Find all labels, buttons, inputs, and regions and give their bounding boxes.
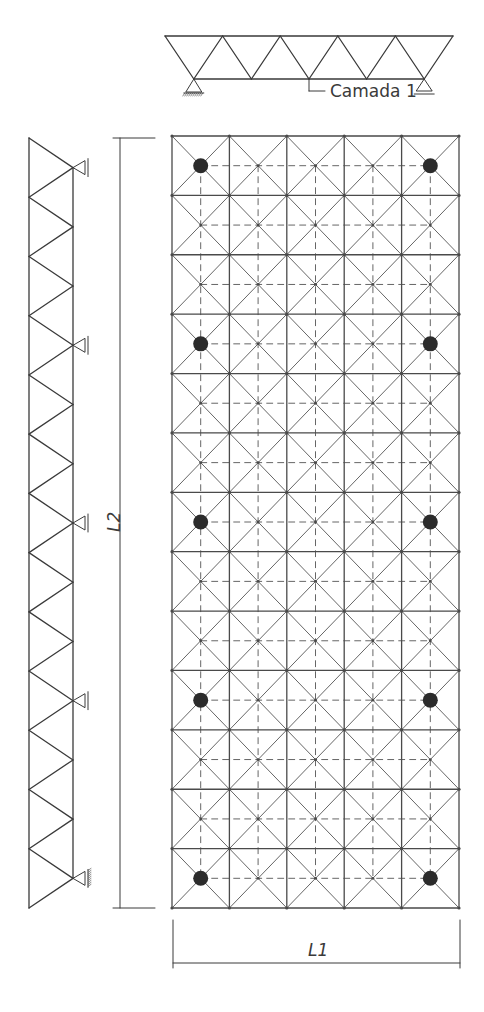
node xyxy=(314,877,317,880)
node xyxy=(429,283,432,286)
node xyxy=(400,906,403,909)
node xyxy=(170,906,173,909)
web-diagonal xyxy=(29,375,73,405)
node xyxy=(343,134,346,137)
node xyxy=(257,342,260,345)
node xyxy=(400,609,403,612)
node xyxy=(170,788,173,791)
web-diagonal xyxy=(29,582,73,612)
support-dot xyxy=(423,515,438,530)
node xyxy=(257,521,260,524)
web-diagonal xyxy=(29,849,73,879)
support-dot xyxy=(193,515,208,530)
web-diagonal xyxy=(280,36,309,79)
node xyxy=(199,461,202,464)
web-diagonal xyxy=(29,168,73,198)
roller-support-icon xyxy=(416,79,432,91)
web-diagonal xyxy=(309,36,338,79)
node xyxy=(400,194,403,197)
web-diagonal xyxy=(29,434,73,464)
web-diagonal xyxy=(29,612,73,642)
web-diagonal xyxy=(424,36,453,79)
side-truss-elevation xyxy=(29,138,91,908)
node xyxy=(170,728,173,731)
node xyxy=(372,164,375,167)
support-dot xyxy=(423,158,438,173)
support-dot xyxy=(423,336,438,351)
web-diagonal xyxy=(29,197,73,227)
node xyxy=(228,372,231,375)
web-diagonal xyxy=(29,227,73,257)
node xyxy=(314,699,317,702)
node xyxy=(372,758,375,761)
node xyxy=(170,669,173,672)
node xyxy=(199,402,202,405)
support-dot xyxy=(193,336,208,351)
node xyxy=(429,580,432,583)
node xyxy=(257,402,260,405)
node xyxy=(257,224,260,227)
node xyxy=(372,877,375,880)
node xyxy=(170,194,173,197)
node xyxy=(228,431,231,434)
node xyxy=(285,431,288,434)
node xyxy=(170,847,173,850)
web-diagonal xyxy=(29,345,73,375)
node xyxy=(429,461,432,464)
node xyxy=(199,639,202,642)
node xyxy=(429,402,432,405)
node xyxy=(285,491,288,494)
node xyxy=(314,461,317,464)
web-diagonal xyxy=(29,730,73,760)
node xyxy=(257,580,260,583)
node xyxy=(372,818,375,821)
space-truss-diagram: Camada 1 L1 L2 xyxy=(0,0,484,1012)
node xyxy=(285,788,288,791)
node xyxy=(228,669,231,672)
node xyxy=(343,194,346,197)
node xyxy=(457,847,460,850)
web-diagonal xyxy=(29,316,73,346)
pinned-support-icon xyxy=(186,79,202,92)
node xyxy=(429,639,432,642)
dimension-label-l2: L2 xyxy=(104,512,124,532)
node xyxy=(285,194,288,197)
node xyxy=(457,134,460,137)
node xyxy=(228,253,231,256)
node xyxy=(343,847,346,850)
web-diagonal xyxy=(29,405,73,435)
node xyxy=(228,550,231,553)
node xyxy=(228,313,231,316)
node xyxy=(343,788,346,791)
node xyxy=(457,431,460,434)
node xyxy=(170,431,173,434)
support-dot xyxy=(193,158,208,173)
node xyxy=(199,758,202,761)
node xyxy=(199,224,202,227)
node xyxy=(429,818,432,821)
node xyxy=(457,669,460,672)
web-diagonal xyxy=(395,36,424,79)
web-diagonal xyxy=(29,464,73,494)
node xyxy=(285,134,288,137)
node xyxy=(170,491,173,494)
layer-label: Camada 1 xyxy=(330,81,417,101)
support-dot xyxy=(423,871,438,886)
node xyxy=(314,164,317,167)
node xyxy=(343,431,346,434)
node xyxy=(400,728,403,731)
node xyxy=(343,313,346,316)
node xyxy=(314,818,317,821)
node xyxy=(228,609,231,612)
node xyxy=(372,699,375,702)
web-diagonal xyxy=(194,36,223,79)
node xyxy=(170,313,173,316)
node xyxy=(400,669,403,672)
web-diagonal xyxy=(251,36,280,79)
node xyxy=(257,758,260,761)
web-diagonal xyxy=(29,641,73,671)
node xyxy=(457,906,460,909)
node xyxy=(343,609,346,612)
node xyxy=(257,877,260,880)
node xyxy=(199,283,202,286)
